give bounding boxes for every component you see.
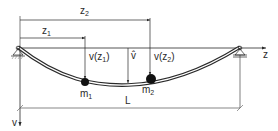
z1-label: z1 bbox=[42, 26, 51, 39]
beam-diagram bbox=[0, 0, 278, 131]
deflected-beam bbox=[18, 47, 240, 85]
v-z1-label: v(z1) bbox=[89, 52, 110, 65]
length-label: L bbox=[125, 96, 131, 106]
v-z2-label: v(z2) bbox=[154, 52, 175, 65]
m1-label: m1 bbox=[80, 89, 92, 102]
z2-label: z2 bbox=[80, 6, 89, 19]
right-support-icon bbox=[233, 46, 247, 108]
mass-m1 bbox=[81, 78, 89, 86]
v-hat-label: v̂ bbox=[131, 51, 136, 61]
m2-label: m2 bbox=[142, 85, 154, 98]
z-axis-label: z bbox=[263, 50, 268, 60]
v-axis-label: v bbox=[12, 118, 17, 128]
mass-m2 bbox=[146, 74, 156, 84]
